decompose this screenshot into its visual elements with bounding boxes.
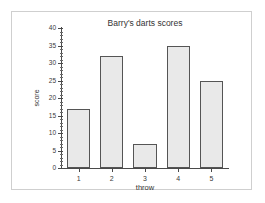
y-tick-minor <box>60 49 63 50</box>
y-tick-label: 5 <box>52 147 56 154</box>
y-tick-label: 20 <box>49 95 56 102</box>
y-tick-major <box>58 81 63 82</box>
y-tick-minor <box>60 158 63 159</box>
x-tick-label: 1 <box>77 175 81 182</box>
x-tick-label: 5 <box>209 175 213 182</box>
y-tick-minor <box>60 140 63 141</box>
y-tick-minor <box>60 67 63 68</box>
bar <box>133 144 156 169</box>
y-tick-minor <box>60 39 63 40</box>
y-tick-major <box>58 46 63 47</box>
y-tick-minor <box>60 137 63 138</box>
y-tick-minor <box>60 95 63 96</box>
chart-title: Barry's darts scores <box>62 19 228 28</box>
y-tick-minor <box>60 144 63 145</box>
y-tick-minor <box>60 56 63 57</box>
y-tick-minor <box>60 147 63 148</box>
y-tick-major <box>58 116 63 117</box>
x-axis-title: throw <box>62 184 228 192</box>
x-tick <box>79 168 80 172</box>
y-tick-label: 40 <box>49 25 56 32</box>
x-tick <box>112 168 113 172</box>
x-tick <box>211 168 212 172</box>
x-tick <box>178 168 179 172</box>
y-tick-label: 10 <box>49 130 56 137</box>
y-tick-minor <box>60 105 63 106</box>
y-tick-major <box>58 168 63 169</box>
y-tick-minor <box>60 165 63 166</box>
x-tick-label: 3 <box>143 175 147 182</box>
y-tick-major <box>58 63 63 64</box>
x-tick-label: 4 <box>176 175 180 182</box>
y-tick-minor <box>60 77 63 78</box>
y-tick-minor <box>60 119 63 120</box>
y-tick-label: 15 <box>49 112 56 119</box>
bar <box>67 109 90 169</box>
y-tick-minor <box>60 84 63 85</box>
y-tick-minor <box>60 91 63 92</box>
x-tick <box>145 168 146 172</box>
y-tick-major <box>58 28 63 29</box>
chart-figure: Barry's darts scores score throw 0510152… <box>0 0 265 203</box>
y-tick-minor <box>60 35 63 36</box>
y-tick-minor <box>60 161 63 162</box>
y-tick-minor <box>60 102 63 103</box>
y-tick-minor <box>60 130 63 131</box>
y-tick-minor <box>60 126 63 127</box>
plot-area: 0510152025303540 12345 <box>62 28 228 168</box>
x-tick-label: 2 <box>110 175 114 182</box>
y-tick-minor <box>60 88 63 89</box>
y-tick-major <box>58 98 63 99</box>
y-tick-minor <box>60 112 63 113</box>
bar <box>200 81 223 169</box>
y-tick-major <box>58 151 63 152</box>
bar <box>100 56 123 168</box>
y-tick-minor <box>60 123 63 124</box>
y-tick-minor <box>60 53 63 54</box>
y-axis-title: score <box>33 89 40 106</box>
y-tick-label: 30 <box>49 60 56 67</box>
y-tick-label: 0 <box>52 165 56 172</box>
y-tick-minor <box>60 42 63 43</box>
y-tick-label: 25 <box>49 77 56 84</box>
y-tick-minor <box>60 60 63 61</box>
y-tick-minor <box>60 154 63 155</box>
bar <box>167 46 190 169</box>
y-tick-minor <box>60 109 63 110</box>
y-tick-minor <box>60 74 63 75</box>
y-tick-label: 35 <box>49 42 56 49</box>
y-tick-major <box>58 133 63 134</box>
y-tick-minor <box>60 70 63 71</box>
y-tick-minor <box>60 32 63 33</box>
